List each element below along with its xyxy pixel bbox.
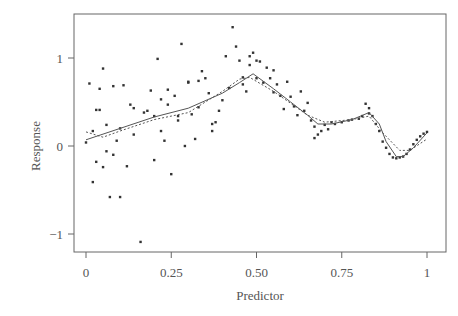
data-point — [102, 67, 104, 69]
data-point — [153, 159, 155, 161]
data-point — [112, 154, 114, 156]
data-point — [163, 140, 165, 142]
data-point — [95, 161, 97, 163]
data-point — [272, 91, 274, 93]
data-point — [269, 77, 271, 79]
x-tick-label: 1 — [424, 265, 431, 280]
data-point — [272, 69, 274, 71]
data-point — [143, 111, 145, 113]
data-point — [133, 133, 135, 135]
data-point — [92, 130, 94, 132]
data-point — [146, 110, 148, 112]
data-point — [115, 140, 117, 142]
data-point — [276, 83, 278, 85]
data-point — [211, 123, 213, 125]
data-point — [102, 166, 104, 168]
y-tick-label: 1 — [57, 51, 64, 66]
data-point — [426, 131, 428, 133]
data-point — [191, 113, 193, 115]
data-point — [422, 132, 424, 134]
data-point — [156, 58, 158, 60]
data-point — [313, 125, 315, 127]
data-point — [98, 88, 100, 90]
data-point — [126, 165, 128, 167]
data-point — [283, 108, 285, 110]
data-point — [208, 92, 210, 94]
data-point — [173, 95, 175, 97]
data-point — [204, 77, 206, 79]
fit-dashed-line — [86, 77, 427, 150]
y-tick-label: 0 — [57, 139, 64, 154]
data-point — [88, 82, 90, 84]
data-point — [419, 135, 421, 137]
x-tick-label: 0.25 — [160, 265, 183, 280]
data-point — [167, 103, 169, 105]
data-point — [317, 133, 319, 135]
data-point — [255, 59, 257, 61]
fit-curves — [86, 74, 427, 157]
data-point — [119, 196, 121, 198]
data-point — [327, 128, 329, 130]
data-point — [235, 45, 237, 47]
x-tick-label: 0 — [83, 265, 90, 280]
data-point — [218, 110, 220, 112]
data-point — [201, 70, 203, 72]
data-point — [92, 181, 94, 183]
data-point — [221, 99, 223, 101]
data-point — [320, 130, 322, 132]
data-point — [170, 173, 172, 175]
data-point — [412, 143, 414, 145]
data-points — [85, 26, 428, 243]
data-point — [122, 84, 124, 86]
data-point — [129, 103, 131, 105]
data-point — [85, 141, 87, 143]
data-point — [242, 83, 244, 85]
data-point — [289, 96, 291, 98]
x-tick-label: 0.75 — [330, 265, 353, 280]
data-point — [187, 81, 189, 83]
data-point — [245, 90, 247, 92]
data-point — [109, 196, 111, 198]
data-point — [416, 139, 418, 141]
data-point — [160, 98, 162, 100]
data-point — [395, 157, 397, 159]
fit-solid-line — [86, 74, 427, 157]
data-point — [160, 130, 162, 132]
data-point — [211, 130, 213, 132]
data-point — [248, 55, 250, 57]
data-point — [167, 88, 169, 90]
data-point — [197, 80, 199, 82]
data-point — [313, 137, 315, 139]
data-point — [368, 107, 370, 109]
data-point — [133, 107, 135, 109]
data-point — [231, 26, 233, 28]
data-point — [248, 64, 250, 66]
data-point — [286, 81, 288, 83]
data-point — [95, 109, 97, 111]
data-point — [310, 119, 312, 121]
data-point — [300, 90, 302, 92]
data-point — [381, 140, 383, 142]
y-tick-label: −1 — [49, 227, 63, 242]
data-point — [364, 103, 366, 105]
data-point — [177, 119, 179, 121]
data-point — [98, 109, 100, 111]
data-point — [194, 138, 196, 140]
data-point — [296, 114, 298, 116]
scatter-chart: 00.250.500.751 10−1 Predictor Response — [0, 0, 458, 316]
data-point — [150, 89, 152, 91]
data-point — [252, 52, 254, 54]
data-point — [392, 156, 394, 158]
data-point — [177, 115, 179, 117]
data-point — [306, 102, 308, 104]
x-axis-label: Predictor — [236, 288, 284, 303]
x-tick-label: 0.50 — [245, 265, 268, 280]
data-point — [388, 153, 390, 155]
data-point — [112, 85, 114, 87]
x-axis-ticks: 00.250.500.751 — [83, 252, 431, 280]
data-point — [266, 66, 268, 68]
plot-frame — [74, 14, 446, 252]
y-axis-ticks: 10−1 — [49, 51, 74, 242]
data-point — [238, 59, 240, 61]
data-point — [184, 145, 186, 147]
